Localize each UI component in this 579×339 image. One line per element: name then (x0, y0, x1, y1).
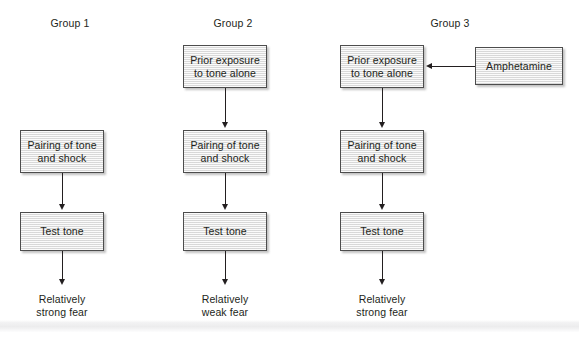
box-group3-test-tone-label: Test tone (360, 225, 404, 238)
arrowhead-group3-prior-to-pairing (379, 122, 385, 128)
connector-group3-prior-to-pairing (382, 88, 383, 124)
box-group2-prior-exposure-label: Prior exposure to tone alone (190, 54, 260, 80)
connector-group2-pairing-to-test (225, 173, 226, 206)
box-amphetamine-label: Amphetamine (486, 60, 552, 73)
arrowhead-amphetamine-to-group3 (426, 63, 432, 69)
box-group1-test-tone-label: Test tone (40, 225, 84, 238)
box-group2-test-tone: Test tone (183, 212, 267, 251)
outcome-group1: Relatively strong fear (12, 293, 112, 319)
connector-group1-pairing-to-test (62, 173, 63, 206)
arrowhead-group1-pairing-to-test (59, 204, 65, 210)
box-group1-pairing: Pairing of tone and shock (20, 130, 104, 173)
box-amphetamine: Amphetamine (475, 47, 563, 85)
group-label-3: Group 3 (400, 17, 500, 29)
outcome-group2: Relatively weak fear (175, 293, 275, 319)
connector-group2-test-to-outcome (225, 251, 226, 281)
box-group3-pairing-label: Pairing of tone and shock (347, 139, 416, 165)
group-label-1: Group 1 (20, 17, 120, 29)
box-group3-prior-exposure-label: Prior exposure to tone alone (347, 54, 417, 80)
connector-group1-test-to-outcome (62, 251, 63, 281)
arrowhead-group1-test-to-outcome (59, 279, 65, 285)
figure-canvas: Group 1 Pairing of tone and shock Test t… (0, 0, 579, 339)
page-bottom-band (0, 320, 579, 332)
box-group1-test-tone: Test tone (20, 212, 104, 251)
box-group3-test-tone: Test tone (340, 212, 424, 251)
arrowhead-group3-test-to-outcome (379, 279, 385, 285)
box-group3-prior-exposure: Prior exposure to tone alone (340, 45, 424, 88)
arrowhead-group3-pairing-to-test (379, 204, 385, 210)
box-group2-pairing: Pairing of tone and shock (183, 130, 267, 173)
connector-amphetamine-to-group3 (432, 66, 475, 67)
connector-group3-test-to-outcome (382, 251, 383, 281)
box-group2-prior-exposure: Prior exposure to tone alone (183, 45, 267, 88)
connector-group3-pairing-to-test (382, 173, 383, 206)
group-label-2: Group 2 (183, 17, 283, 29)
arrowhead-group2-prior-to-pairing (222, 122, 228, 128)
box-group3-pairing: Pairing of tone and shock (340, 130, 424, 173)
connector-group2-prior-to-pairing (225, 88, 226, 124)
arrowhead-group2-test-to-outcome (222, 279, 228, 285)
box-group2-pairing-label: Pairing of tone and shock (190, 139, 259, 165)
arrowhead-group2-pairing-to-test (222, 204, 228, 210)
outcome-group3: Relatively strong fear (332, 293, 432, 319)
box-group2-test-tone-label: Test tone (203, 225, 247, 238)
box-group1-pairing-label: Pairing of tone and shock (27, 139, 96, 165)
